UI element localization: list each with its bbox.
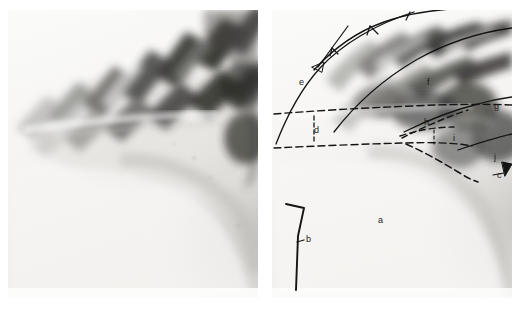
panel-unannotated-radiograph: [8, 10, 258, 298]
radiograph-image-left: [8, 10, 258, 298]
figure-radiograph-pair: a b c d e f g h i j: [0, 0, 520, 309]
panel-annotated-radiograph: a b c d e f g h i j: [272, 10, 512, 298]
radiograph-image-right: [272, 10, 512, 298]
